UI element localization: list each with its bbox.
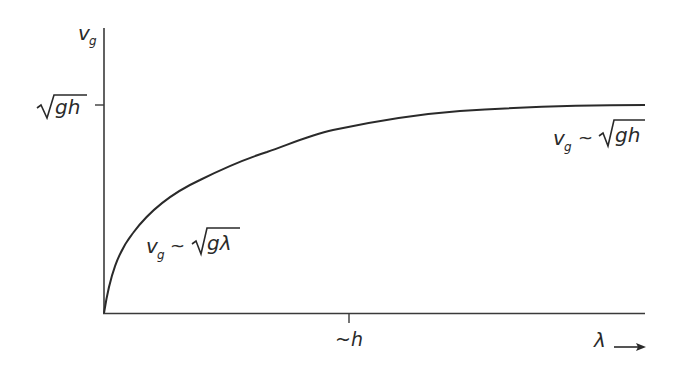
annotation-deep-water: v g ~ gλ <box>146 228 240 262</box>
svg-text:gλ: gλ <box>207 231 232 255</box>
svg-text:gh: gh <box>615 123 640 147</box>
svg-text:g: g <box>157 248 165 262</box>
y-tick-label: gh <box>37 95 87 119</box>
x-axis-label: λ <box>593 328 606 352</box>
svg-text:~: ~ <box>170 235 185 256</box>
right-arrow-icon <box>614 343 646 351</box>
svg-text:gh: gh <box>55 95 80 119</box>
svg-text:g: g <box>564 140 572 154</box>
svg-text:~: ~ <box>578 127 593 148</box>
y-axis-label-sub: g <box>89 34 97 48</box>
x-tick-label: ~h <box>335 328 363 350</box>
plot-canvas: v g gh ~h λ v g ~ gλ v g ~ gh <box>0 0 676 371</box>
group-velocity-figure: v g gh ~h λ v g ~ gλ v g ~ gh <box>0 0 676 371</box>
annotation-shallow-water: v g ~ gh <box>553 120 645 154</box>
